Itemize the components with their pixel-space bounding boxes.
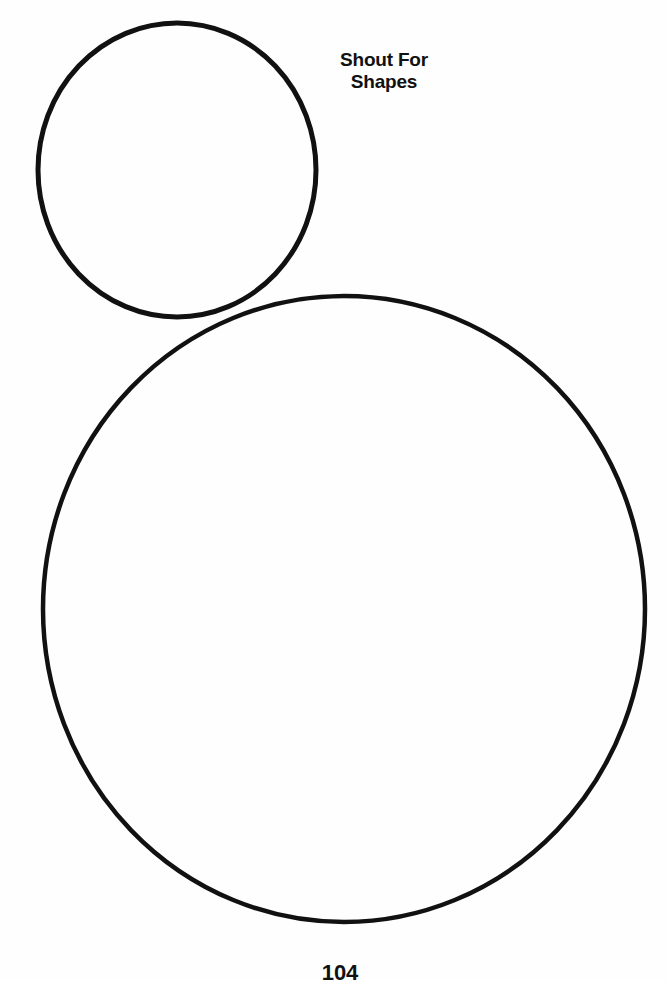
worksheet-page: Shout For Shapes 104 — [0, 0, 668, 981]
shapes-canvas — [0, 0, 668, 981]
large-circle-outline — [43, 296, 645, 922]
title-line-1: Shout For — [315, 49, 453, 71]
small-circle-outline — [38, 23, 316, 317]
title-line-2: Shapes — [315, 71, 453, 93]
worksheet-title: Shout For Shapes — [315, 49, 453, 93]
page-number: 104 — [300, 961, 380, 981]
